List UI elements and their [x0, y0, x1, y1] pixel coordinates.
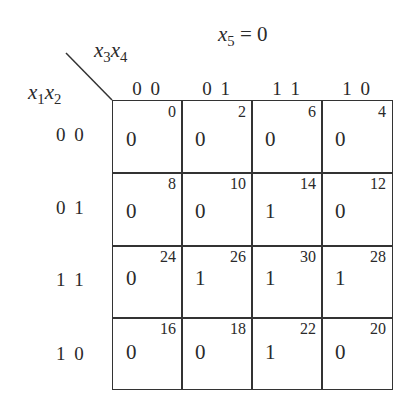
cell-m8: 80 [113, 173, 182, 246]
minterm-index: 0 [168, 103, 176, 121]
cell-m10: 100 [182, 173, 252, 246]
cell-value: 0 [195, 340, 206, 365]
cell-value: 0 [195, 127, 206, 152]
cell-value: 1 [265, 340, 276, 365]
cell-value: 1 [265, 266, 276, 291]
cell-m6: 60 [252, 101, 322, 173]
column-header-10: 1 0 [322, 78, 392, 100]
minterm-index: 10 [230, 175, 246, 193]
cell-m28: 281 [322, 246, 392, 318]
cell-m24: 240 [113, 246, 182, 318]
karnaugh-map-grid: 00 20 60 40 80 100 141 120 240 261 301 2… [112, 100, 393, 390]
minterm-index: 6 [308, 103, 316, 121]
row-header-10: 1 0 [56, 343, 106, 365]
cell-m12: 120 [322, 173, 392, 246]
cell-value: 0 [335, 340, 346, 365]
cell-value: 0 [335, 127, 346, 152]
cell-value: 0 [126, 340, 137, 365]
minterm-index: 22 [300, 320, 316, 338]
cell-value: 1 [195, 266, 206, 291]
minterm-index: 18 [230, 320, 246, 338]
cell-m30: 301 [252, 246, 322, 318]
minterm-index: 8 [168, 175, 176, 193]
cell-value: 1 [335, 266, 346, 291]
cell-m4: 40 [322, 101, 392, 173]
minterm-index: 12 [370, 175, 386, 193]
column-header-00: 0 0 [112, 78, 182, 100]
cell-value: 0 [126, 266, 137, 291]
cell-m2: 20 [182, 101, 252, 173]
cell-m14: 141 [252, 173, 322, 246]
minterm-index: 4 [378, 103, 386, 121]
row-header-01: 0 1 [56, 197, 106, 219]
cell-m0: 00 [113, 101, 182, 173]
minterm-index: 26 [230, 248, 246, 266]
minterm-index: 14 [300, 175, 316, 193]
cell-value: 0 [335, 199, 346, 224]
minterm-index: 28 [370, 248, 386, 266]
cell-value: 0 [126, 127, 137, 152]
cell-value: 0 [126, 199, 137, 224]
column-header-11: 1 1 [252, 78, 322, 100]
minterm-index: 30 [300, 248, 316, 266]
cell-m26: 261 [182, 246, 252, 318]
cell-m22: 221 [252, 318, 322, 389]
minterm-index: 16 [160, 320, 176, 338]
row-header-00: 0 0 [56, 124, 106, 146]
cell-m16: 160 [113, 318, 182, 389]
cell-value: 0 [195, 199, 206, 224]
cell-m20: 200 [322, 318, 392, 389]
minterm-index: 20 [370, 320, 386, 338]
row-header-11: 1 1 [56, 269, 106, 291]
minterm-index: 2 [238, 103, 246, 121]
minterm-index: 24 [160, 248, 176, 266]
column-header-01: 0 1 [182, 78, 252, 100]
cell-value: 0 [265, 127, 276, 152]
cell-m18: 180 [182, 318, 252, 389]
cell-value: 1 [265, 199, 276, 224]
